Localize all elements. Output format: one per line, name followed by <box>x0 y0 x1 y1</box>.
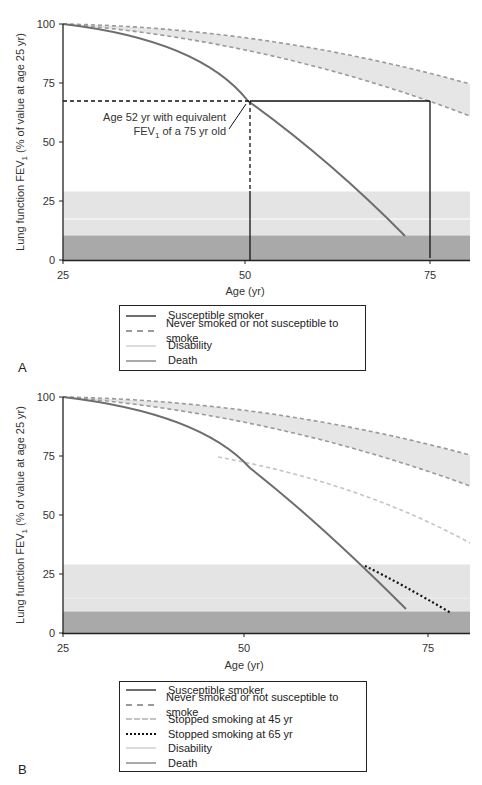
death-swatch-icon <box>126 762 156 764</box>
xtick-50: 50 <box>238 642 250 654</box>
never-smoked-band <box>63 397 470 486</box>
x-axis-label: Age (yr) <box>224 659 263 671</box>
chart-a: Age 52 yr with equivalent FEV1 of a 75 y… <box>0 0 482 300</box>
ytick-25: 25 <box>43 568 55 580</box>
xtick-75: 75 <box>422 642 434 654</box>
solid-line-swatch-icon <box>126 315 156 317</box>
xtick-75: 75 <box>424 269 436 281</box>
ytick-100: 100 <box>37 391 55 403</box>
disability-swatch-icon <box>126 345 156 347</box>
legend-item-never-smoked: Never smoked or not susceptible to smoke <box>126 698 360 713</box>
ytick-0: 0 <box>49 627 55 639</box>
xtick-25: 25 <box>57 642 69 654</box>
legend-a: Susceptible smoker Never smoked or not s… <box>119 305 366 371</box>
ytick-100: 100 <box>37 18 55 30</box>
panel-label-b: B <box>18 762 27 777</box>
ytick-50: 50 <box>43 509 55 521</box>
y-axis-label: Lung function FEV1 (% of value at age 25… <box>14 406 29 624</box>
disability-band <box>63 192 470 236</box>
ytick-0: 0 <box>49 254 55 266</box>
dotted-line-swatch-icon <box>126 733 156 735</box>
light-dashed-line-swatch-icon <box>126 718 156 720</box>
disability-swatch-icon <box>126 747 156 749</box>
x-axis-label: Age (yr) <box>225 285 264 297</box>
solid-line-swatch-icon <box>126 689 156 691</box>
death-band <box>63 236 470 261</box>
y-axis-label: Lung function FEV1 (% of value at age 25… <box>14 33 29 251</box>
legend-item-stopped-65: Stopped smoking at 65 yr <box>126 727 360 742</box>
xtick-50: 50 <box>239 269 251 281</box>
legend-item-never-smoked: Never smoked or not susceptible to smoke <box>126 323 359 338</box>
disability-band <box>63 565 470 612</box>
legend-item-death: Death <box>126 353 359 368</box>
annotation-text-line2: FEV1 of a 75 yr old <box>133 125 226 140</box>
legend-item-death: Death <box>126 756 360 771</box>
xtick-25: 25 <box>57 269 69 281</box>
death-swatch-icon <box>126 360 156 362</box>
ytick-75: 75 <box>43 450 55 462</box>
ytick-25: 25 <box>43 195 55 207</box>
legend-b: Susceptible smoker Never smoked or not s… <box>119 681 367 772</box>
death-band <box>63 612 470 634</box>
legend-item-disability: Disability <box>126 741 360 756</box>
annotation-pointer <box>229 104 246 129</box>
ytick-75: 75 <box>43 77 55 89</box>
dashed-line-swatch-icon <box>126 704 154 706</box>
dashed-line-swatch-icon <box>126 330 154 332</box>
chart-b: 100 75 50 25 0 25 50 75 Age (yr) Lung fu… <box>0 373 482 673</box>
ytick-50: 50 <box>43 136 55 148</box>
never-smoked-band <box>63 24 470 116</box>
annotation-text-line1: Age 52 yr with equivalent <box>103 111 226 123</box>
